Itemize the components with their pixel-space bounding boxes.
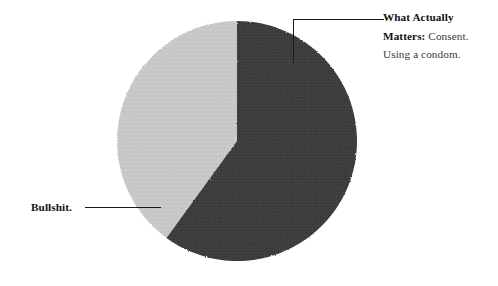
annotation-right-line-1: What Actually: [383, 8, 495, 27]
leader-line-right-horizontal: [293, 19, 384, 20]
pie-svg: [117, 21, 357, 261]
annotation-right-bold-1: What Actually: [383, 11, 454, 23]
annotation-right-bold-2: Matters:: [383, 30, 425, 42]
annotation-label-bullshit: Bullshit.: [31, 199, 72, 215]
leader-line-right-vertical: [293, 19, 294, 63]
annotation-right-line-2: Matters: Consent.: [383, 27, 495, 46]
leader-line-left-horizontal: [85, 207, 161, 208]
pie-chart-figure: What Actually Matters: Consent. Using a …: [0, 0, 498, 286]
annotation-right-line-3: Using a condom.: [383, 45, 495, 64]
pie-chart-graphic: [117, 21, 357, 261]
annotation-right-plain-3: Using a condom.: [383, 48, 461, 60]
annotation-right-plain-2: Consent.: [425, 30, 468, 42]
annotation-label-what-actually-matters: What Actually Matters: Consent. Using a …: [383, 8, 495, 64]
